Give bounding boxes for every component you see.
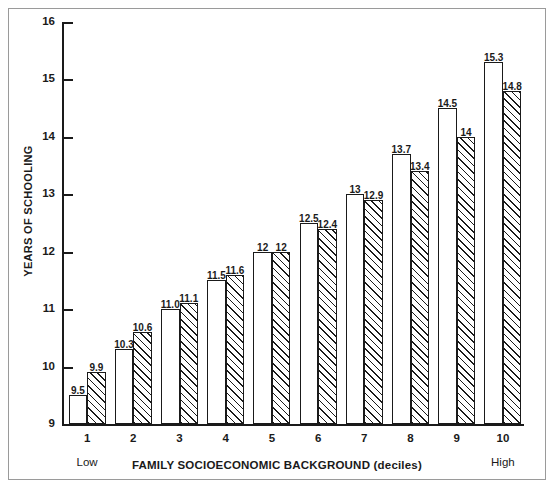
bar: 11.0 [161, 309, 180, 424]
bar-value-label: 12.4 [318, 219, 337, 230]
bar-value-label: 12 [257, 242, 268, 253]
bar: 9.9 [87, 372, 106, 424]
bar: 9.5 [69, 395, 88, 424]
bar: 13.7 [392, 154, 411, 424]
bar-value-label: 11.6 [225, 265, 244, 276]
bar-value-label: 12.5 [299, 213, 318, 224]
bar-value-label: 11.5 [207, 270, 226, 281]
bar-value-label: 9.9 [89, 362, 103, 373]
bar: 11.5 [207, 280, 226, 424]
bar: 15.3 [484, 62, 503, 424]
y-axis-line [62, 22, 64, 426]
bar-group: 14.514 [438, 22, 475, 424]
bar-value-label: 11.1 [179, 293, 198, 304]
bar: 12.4 [318, 229, 337, 424]
bar-value-label: 13 [349, 184, 360, 195]
y-axis-tick-mark [64, 424, 73, 426]
figure: YEARS OF SCHOOLING 910111213141516 9.59.… [0, 0, 554, 494]
plot-area: 910111213141516 9.59.910.310.611.011.111… [62, 22, 524, 426]
x-axis-line [62, 424, 524, 426]
bar: 10.6 [133, 332, 152, 424]
x-axis-tick-label: 3 [176, 432, 182, 444]
bar-group: 13.713.4 [392, 22, 429, 424]
x-axis-tick-label: 4 [222, 432, 228, 444]
y-axis-tick-label: 12 [42, 244, 55, 259]
y-axis-tick-label: 14 [42, 129, 55, 144]
bar-group: 9.59.9 [69, 22, 106, 424]
bar-group: 10.310.6 [115, 22, 152, 424]
bar-group: 1212 [253, 22, 290, 424]
bar-value-label: 10.3 [114, 339, 133, 350]
x-axis-tick-label: 10 [496, 432, 509, 444]
bar-value-label: 10.6 [133, 322, 152, 333]
bar-value-label: 12 [276, 242, 287, 253]
y-axis-tick-label: 9 [49, 416, 55, 431]
bar: 10.3 [115, 349, 134, 424]
bar-value-label: 15.3 [484, 52, 503, 63]
bar-group: 15.314.8 [484, 22, 521, 424]
bar: 14.8 [503, 91, 522, 424]
bar-value-label: 12.9 [364, 190, 383, 201]
bar: 11.6 [226, 275, 245, 424]
x-axis-tick-label: 1 [84, 432, 90, 444]
y-axis-tick-label: 15 [42, 71, 55, 86]
bar-value-label: 9.5 [71, 385, 85, 396]
bar: 14 [457, 137, 476, 424]
bar-value-label: 14 [460, 127, 471, 138]
y-axis-tick-label: 13 [42, 186, 55, 201]
bar-value-label: 13.4 [410, 161, 429, 172]
x-axis-tick-label: 5 [269, 432, 275, 444]
bar: 12 [253, 252, 272, 424]
bar-group: 11.011.1 [161, 22, 198, 424]
bar-value-label: 14.5 [438, 98, 457, 109]
bar-value-label: 13.7 [392, 144, 411, 155]
bar-group: 1312.9 [346, 22, 383, 424]
y-axis-tick-label: 11 [43, 301, 55, 316]
y-axis-tick-label: 16 [42, 14, 55, 29]
y-axis-title: YEARS OF SCHOOLING [22, 111, 34, 311]
bar: 13 [346, 194, 365, 424]
x-axis-tick-label: 2 [130, 432, 136, 444]
bar: 11.1 [180, 303, 199, 424]
bar-group: 12.512.4 [300, 22, 337, 424]
x-axis-title: FAMILY SOCIOECONOMIC BACKGROUND (deciles… [0, 459, 554, 471]
bar: 12.5 [300, 223, 319, 424]
x-axis-tick-label: 7 [361, 432, 367, 444]
x-axis-tick-label: 9 [453, 432, 459, 444]
y-axis-tick-label: 10 [42, 359, 55, 374]
bar: 12 [272, 252, 291, 424]
bar: 12.9 [364, 200, 383, 424]
bar-value-label: 11.0 [161, 299, 180, 310]
bar: 14.5 [438, 108, 457, 424]
bar-value-label: 14.8 [502, 81, 521, 92]
bar: 13.4 [411, 171, 430, 424]
x-axis-tick-label: 8 [407, 432, 413, 444]
bar-group: 11.511.6 [207, 22, 244, 424]
x-axis-tick-label: 6 [315, 432, 321, 444]
